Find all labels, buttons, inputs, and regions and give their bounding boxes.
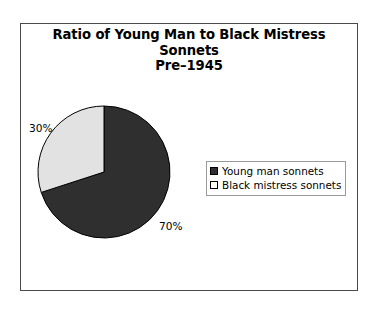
pie-label-young-man-sonnets: 70%: [159, 220, 183, 232]
chart-legend: Young man sonnets Black mistress sonnets: [206, 161, 346, 196]
legend-item-black-mistress-sonnets[interactable]: Black mistress sonnets: [210, 178, 341, 192]
pie-chart-graphic: [21, 24, 359, 292]
legend-swatch-icon: [210, 181, 218, 189]
legend-item-young-man-sonnets[interactable]: Young man sonnets: [210, 164, 341, 178]
legend-item-label: Black mistress sonnets: [222, 180, 341, 190]
pie-chart-area: 30% 70% Young man sonnets Black mistress…: [21, 24, 359, 292]
chart-frame: Ratio of Young Man to Black Mistress Son…: [20, 23, 358, 291]
legend-item-label: Young man sonnets: [222, 166, 324, 176]
pie-label-black-mistress-sonnets: 30%: [29, 122, 53, 134]
legend-swatch-icon: [210, 167, 218, 175]
